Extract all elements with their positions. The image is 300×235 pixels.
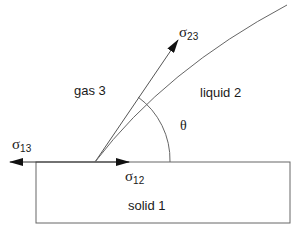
theta-label: θ (180, 118, 187, 134)
solid-block (36, 162, 290, 223)
sigma23-arrow (95, 40, 178, 162)
gas-phase-label: gas 3 (74, 83, 106, 98)
sigma13-label: σ13 (12, 136, 31, 154)
sigma12-label: σ12 (125, 168, 144, 186)
solid-phase-label: solid 1 (128, 198, 166, 213)
sigma23-label: σ23 (179, 24, 198, 42)
contact-angle-arc (138, 97, 170, 162)
liquid-phase-label: liquid 2 (200, 85, 241, 100)
